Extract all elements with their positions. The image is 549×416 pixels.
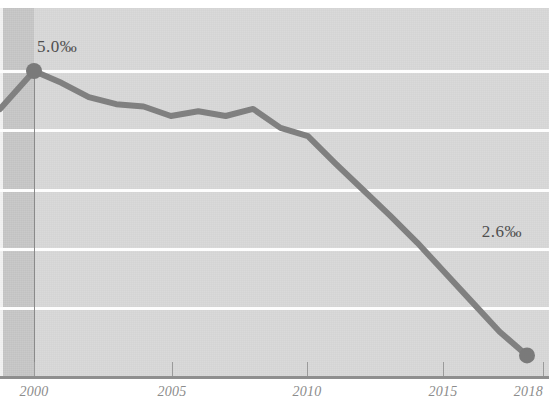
start-marker	[26, 63, 42, 79]
series-marker-group	[26, 63, 535, 363]
line-chart: 20002005201020152018 5.0‰ 2.6‰	[0, 0, 549, 416]
end-marker	[519, 347, 535, 363]
series-line-rate	[0, 71, 527, 355]
series-layer	[0, 0, 549, 416]
end-value-label: 2.6‰	[482, 222, 522, 242]
start-value-label: 5.0‰	[37, 37, 77, 57]
